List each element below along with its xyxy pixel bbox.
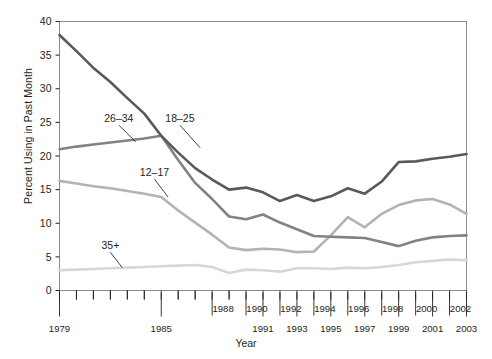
x-tick-label-upper: 2000	[416, 303, 437, 314]
y-tick-label: 20	[40, 150, 52, 162]
x-tick-label-lower: 1997	[354, 323, 375, 334]
x-axis-label: Year	[0, 337, 492, 349]
series-label-26-34: 26–34	[104, 112, 133, 124]
x-tick-label-lower: 2001	[422, 323, 443, 334]
y-axis-label: Percent Using in Past Month	[22, 36, 34, 236]
y-tick-label: 0	[46, 284, 52, 296]
x-tick-label-lower: 1999	[388, 323, 409, 334]
x-tick-label-lower: 1995	[320, 323, 341, 334]
x-tick-label-upper: 1998	[382, 303, 403, 314]
y-tick-label: 15	[40, 183, 52, 195]
y-tick-label: 5	[46, 251, 52, 263]
y-tick-label: 10	[40, 217, 52, 229]
x-axis-ticks: 1988199019921994199619982000200219791985…	[49, 291, 477, 334]
series-label-12-17: 12–17	[140, 166, 169, 178]
y-tick-label: 25	[40, 116, 52, 128]
x-tick-label-upper: 1994	[314, 303, 336, 314]
x-tick-label-upper: 1992	[280, 303, 301, 314]
y-tick-label: 30	[40, 82, 52, 94]
x-tick-label-lower: 1985	[151, 323, 172, 334]
series-lines	[60, 35, 467, 273]
x-tick-label-lower: 1991	[252, 323, 273, 334]
x-tick-label-lower: 1979	[49, 323, 70, 334]
x-tick-label-lower: 2003	[456, 323, 477, 334]
x-tick-label-lower: 1993	[286, 323, 307, 334]
y-tick-label: 40	[40, 15, 52, 27]
y-tick-label: 35	[40, 49, 52, 61]
x-tick-label-upper: 1990	[246, 303, 267, 314]
x-tick-label-upper: 2002	[450, 303, 471, 314]
x-tick-label-upper: 1996	[348, 303, 369, 314]
series-label-35+: 35+	[101, 239, 119, 251]
plot-frame	[60, 22, 467, 291]
chart-figure: Percent Using in Past Month Year 0510152…	[0, 0, 492, 359]
series-label-18-25: 18–25	[165, 112, 194, 124]
line-chart-plot: 0510152025303540 19881990199219941996199…	[0, 0, 492, 359]
y-axis-ticks: 0510152025303540	[40, 15, 60, 296]
x-tick-label-upper: 1988	[212, 303, 233, 314]
series-line-35+	[60, 260, 467, 273]
